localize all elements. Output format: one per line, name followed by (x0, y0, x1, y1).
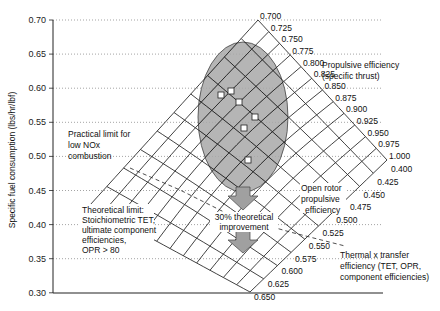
annotation-text: efficiency (TET, OPR, (340, 261, 421, 271)
thermal-label: 0.400 (391, 164, 413, 174)
annotation-text: component efficiencies) (340, 272, 429, 282)
annotation-propulsive: Propulsive efficiency (specific thrust) (322, 60, 400, 81)
y-tick-label: 0.55 (28, 117, 46, 127)
annotation-improvement: 30% theoretical improvement (210, 212, 278, 232)
thermal-label: 0.525 (323, 228, 345, 238)
y-tick-label: 0.65 (28, 49, 46, 59)
thermal-label: 0.625 (268, 279, 290, 289)
propulsive-label: 0.725 (271, 23, 293, 33)
propulsive-label: 0.925 (357, 116, 379, 126)
propulsive-label: 0.975 (378, 139, 400, 149)
y-tick-label: 0.50 (28, 151, 46, 161)
propulsive-label: 0.850 (325, 81, 347, 91)
thermal-label: 0.450 (364, 190, 386, 200)
data-point (245, 157, 251, 163)
annotation-practical-limit: Practical limit for low NOx combustion (68, 129, 131, 161)
annotation-text: combustion (68, 151, 112, 161)
data-point (228, 88, 234, 94)
propulsive-label: 0.775 (292, 46, 314, 56)
data-point (218, 92, 224, 98)
annotation-text: efficiencies, (82, 235, 126, 245)
y-tick-label: 0.30 (28, 288, 46, 298)
current-engines-region (198, 42, 288, 192)
annotation-open-rotor: Open rotor propulsive efficiency (300, 183, 346, 215)
annotation-theoretical-limit: Theoretical limit: Stoichiometric TET, u… (80, 204, 157, 256)
y-axis-label: Specific fuel consumption (lbs/hr/lbf) (7, 92, 17, 229)
annotation-text: (specific thrust) (322, 71, 380, 81)
propulsive-label: 0.875 (335, 93, 357, 103)
thermal-label: 0.650 (254, 292, 276, 302)
annotation-text: Theoretical limit: (82, 205, 144, 215)
sfc-efficiency-chart: Specific fuel consumption (lbs/hr/lbf) 0… (0, 0, 440, 311)
propulsive-label: 0.900 (346, 104, 368, 114)
thermal-label: 0.500 (336, 215, 358, 225)
annotation-text: low NOx (68, 140, 101, 150)
annotation-thermal: Thermal x transfer efficiency (TET, OPR,… (340, 250, 429, 282)
data-point (236, 99, 242, 105)
y-tick-label: 0.45 (28, 186, 46, 196)
thermal-label: 0.600 (281, 266, 303, 276)
y-tick-label: 0.35 (28, 254, 46, 264)
annotation-text: Thermal x transfer (340, 250, 409, 260)
thermal-label: 0.575 (295, 254, 317, 264)
annotation-text: Stoichiometric TET, (82, 215, 155, 225)
annotation-text: improvement (219, 222, 269, 232)
y-tick-label: 0.40 (28, 220, 46, 230)
y-tick-label: 0.70 (28, 15, 46, 25)
propulsive-label: 0.700 (260, 11, 282, 21)
thermal-label: 0.425 (377, 177, 399, 187)
data-point (241, 125, 247, 131)
annotation-text: Open rotor (301, 183, 342, 193)
annotation-text: Practical limit for (68, 129, 131, 139)
annotation-text: propulsive (301, 194, 340, 204)
propulsive-label: 1.000 (389, 151, 411, 161)
annotation-text: OPR > 80 (82, 245, 120, 255)
propulsive-label: 0.750 (282, 34, 304, 44)
propulsive-label: 0.950 (368, 128, 390, 138)
y-tick-labels: 0.700.650.600.550.500.450.400.350.30 (28, 15, 46, 298)
y-tick-label: 0.60 (28, 83, 46, 93)
annotation-text: Propulsive efficiency (322, 60, 400, 70)
thermal-label: 0.475 (350, 202, 372, 212)
annotation-text: 30% theoretical (215, 212, 274, 222)
annotation-text: ultimate component (82, 225, 157, 235)
data-point (252, 114, 258, 120)
annotation-text: efficiency (305, 205, 341, 215)
thermal-label: 0.550 (309, 241, 331, 251)
